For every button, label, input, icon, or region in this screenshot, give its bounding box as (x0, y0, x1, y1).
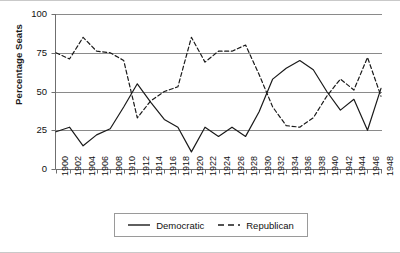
y-tick-label: 75 (15, 47, 47, 58)
legend-label-republican: Republican (246, 220, 294, 231)
y-tick-label: 100 (15, 8, 47, 19)
legend-item-republican: Republican (218, 220, 294, 231)
x-tick-label: 1916 (168, 156, 178, 176)
x-tick-label: 1944 (357, 156, 367, 176)
x-tick-label: 1904 (87, 156, 97, 176)
axes (56, 14, 383, 170)
legend-item-democratic: Democratic (128, 220, 204, 231)
chart-legend: Democratic Republican (114, 213, 308, 237)
x-tick-label: 1940 (330, 156, 340, 176)
x-tick-label: 1922 (208, 156, 218, 176)
legend-swatch-solid (128, 221, 150, 229)
x-tick-label: 1926 (236, 156, 246, 176)
x-tick-label: 1948 (385, 156, 395, 176)
x-tick-label: 1914 (154, 156, 164, 176)
legend-swatch-dashed (218, 221, 240, 229)
series-line-republican (56, 37, 381, 127)
x-tick-label: 1942 (344, 156, 354, 176)
x-tick-label: 1912 (141, 156, 151, 176)
x-tick-label: 1902 (73, 156, 83, 176)
x-tick-label: 1924 (222, 156, 232, 176)
x-tick-label: 1930 (263, 156, 273, 176)
x-tick-label: 1932 (276, 156, 286, 176)
data-series (56, 37, 381, 152)
chart-frame: Percentage Seats 0255075100 190019021904… (0, 0, 400, 253)
x-tick-label: 1920 (195, 156, 205, 176)
legend-label-democratic: Democratic (156, 220, 204, 231)
x-tick-label: 1938 (317, 156, 327, 176)
x-tick-label: 1946 (371, 156, 381, 176)
x-tick-label: 1908 (114, 156, 124, 176)
y-axis-ticks (52, 15, 56, 170)
x-tick-label: 1934 (290, 156, 300, 176)
series-line-democratic (56, 61, 381, 152)
x-tick-label: 1906 (100, 156, 110, 176)
x-tick-label: 1900 (60, 156, 70, 176)
y-tick-label: 50 (15, 86, 47, 97)
x-tick-label: 1918 (181, 156, 191, 176)
y-tick-label: 0 (15, 163, 47, 174)
gridlines (56, 15, 383, 170)
x-tick-label: 1936 (303, 156, 313, 176)
x-tick-label: 1910 (127, 156, 137, 176)
x-tick-label: 1928 (249, 156, 259, 176)
y-tick-label: 25 (15, 124, 47, 135)
